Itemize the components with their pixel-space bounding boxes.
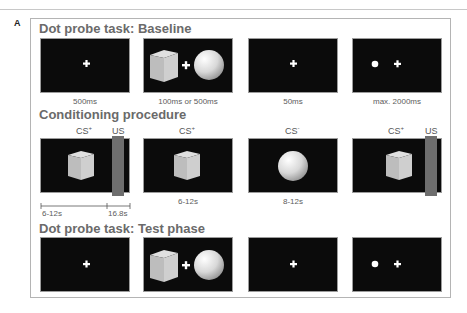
top-rule xyxy=(0,9,467,10)
cs-plus-label-4: CS+ xyxy=(388,126,404,136)
panel-test-probe xyxy=(352,237,442,292)
panel-baseline-probe xyxy=(352,38,442,93)
panel-baseline-fixation xyxy=(40,38,130,93)
timeline-us-duration: 16.8s xyxy=(108,209,128,219)
panel-conditioning-cs-plus xyxy=(143,138,233,193)
caption-baseline-1: 500ms xyxy=(35,97,135,107)
panel-conditioning-cs-minus xyxy=(248,138,338,193)
caption-conditioning-2: 6-12s xyxy=(138,197,238,207)
caption-baseline-3: 50ms xyxy=(243,97,343,107)
sphere-icon xyxy=(278,151,308,181)
cube-icon xyxy=(386,151,412,180)
cube-icon xyxy=(150,250,178,282)
section-title-baseline: Dot probe task: Baseline xyxy=(39,21,191,36)
us-bar-4 xyxy=(425,136,437,196)
cube-icon xyxy=(150,50,178,82)
panel-test-fixation-2 xyxy=(248,237,338,292)
cs-minus-label: CS- xyxy=(285,126,300,136)
fixation-cross-icon xyxy=(83,261,90,268)
panel-baseline-stimuli xyxy=(143,38,233,93)
timeline-cs-duration: 6-12s xyxy=(42,209,62,219)
fixation-cross-icon xyxy=(394,261,401,268)
panel-baseline-fixation-2 xyxy=(248,38,338,93)
us-bar-1 xyxy=(112,136,124,196)
caption-conditioning-3: 8-12s xyxy=(243,197,343,207)
fixation-cross-icon xyxy=(83,60,90,67)
us-label-4: US xyxy=(425,126,438,136)
panel-test-fixation xyxy=(40,237,130,292)
fixation-cross-icon xyxy=(182,61,190,69)
cube-icon xyxy=(68,151,94,180)
section-title-test-phase: Dot probe task: Test phase xyxy=(39,221,205,236)
fixation-cross-icon xyxy=(394,60,401,67)
caption-baseline-2: 100ms or 500ms xyxy=(138,97,238,107)
probe-dot-icon xyxy=(372,61,379,68)
fixation-cross-icon xyxy=(182,261,190,269)
fixation-cross-icon xyxy=(290,261,297,268)
us-label-1: US xyxy=(112,126,125,136)
section-title-conditioning: Conditioning procedure xyxy=(39,107,186,122)
cube-icon xyxy=(174,151,200,180)
panel-test-stimuli xyxy=(143,237,233,292)
sphere-icon xyxy=(194,250,224,280)
fixation-cross-icon xyxy=(290,60,297,67)
caption-baseline-4: max. 2000ms xyxy=(347,97,447,107)
probe-dot-icon xyxy=(372,261,379,268)
sphere-icon xyxy=(194,50,224,80)
cs-plus-label-1: CS+ xyxy=(76,126,92,136)
figure-label: A xyxy=(14,18,21,28)
cs-plus-label-2: CS+ xyxy=(179,126,195,136)
